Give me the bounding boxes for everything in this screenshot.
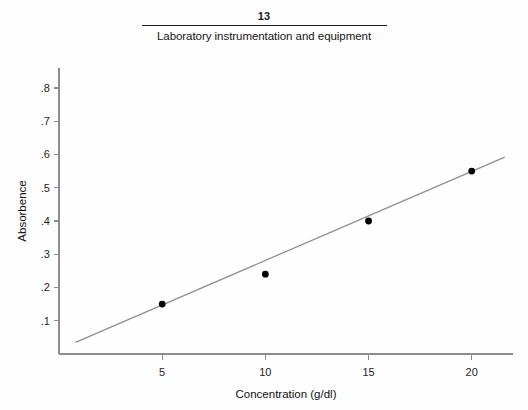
x-axis-tick-label: 5 <box>159 366 165 378</box>
chapter-title: Laboratory instrumentation and equipment <box>0 28 528 44</box>
data-point <box>468 168 475 175</box>
y-axis-tick-label: .6 <box>41 148 50 160</box>
data-point <box>159 301 166 308</box>
x-axis-tick-label: 20 <box>466 366 478 378</box>
calibration-curve-figure: .1.2.3.4.5.6.7.85101520Concentration (g/… <box>0 52 528 410</box>
chapter-number: 13 <box>0 10 528 23</box>
scatter-plot: .1.2.3.4.5.6.7.85101520Concentration (g/… <box>0 52 528 410</box>
data-point <box>262 271 269 278</box>
y-axis-tick-label: .7 <box>41 115 50 127</box>
y-axis-tick-label: .4 <box>41 215 50 227</box>
data-point <box>365 218 372 225</box>
y-axis-tick-label: .5 <box>41 182 50 194</box>
x-axis-title: Concentration (g/dl) <box>236 388 337 400</box>
y-axis-tick-label: .1 <box>41 315 50 327</box>
x-axis-tick-label: 15 <box>362 366 374 378</box>
x-axis-tick-label: 10 <box>259 366 271 378</box>
y-axis-tick-label: .2 <box>41 281 50 293</box>
y-axis-title: Absorbence <box>16 180 28 241</box>
page-header: 13 Laboratory instrumentation and equipm… <box>0 0 528 44</box>
header-rule <box>142 25 387 26</box>
y-axis-tick-label: .8 <box>41 82 50 94</box>
y-axis-tick-label: .3 <box>41 248 50 260</box>
regression-line <box>76 157 505 342</box>
